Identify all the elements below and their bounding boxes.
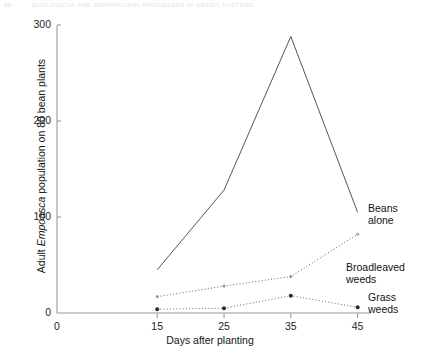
series-marker-grass-weeds <box>155 307 159 311</box>
x-axis-tick-label: 15 <box>144 320 170 332</box>
series-label-grass-weeds: Grass weeds <box>368 292 398 315</box>
series-label-beans-alone-line2: alone <box>368 215 398 227</box>
x-axis-tick-label: 35 <box>278 320 304 332</box>
series-marker-grass-weeds <box>356 305 360 309</box>
series-line-broadleaved-weeds <box>157 234 357 296</box>
x-axis-tick-label: 0 <box>44 320 70 332</box>
y-axis-tick-label: 0 <box>21 306 51 318</box>
series-label-beans-alone: Beans alone <box>368 203 398 226</box>
y-axis-title-prefix: Adult <box>35 246 47 273</box>
chart-plot-area <box>0 0 422 360</box>
series-marker-grass-weeds <box>289 294 293 298</box>
series-line-beans-alone <box>157 37 357 270</box>
y-axis-title-suffix: population on 80 bean plants <box>35 59 47 197</box>
y-axis-title-genus: Empoasca <box>35 197 47 247</box>
chart-series-layer <box>155 37 359 312</box>
series-label-broadleaved-line2: weeds <box>346 274 405 286</box>
x-axis-tick-label: 25 <box>211 320 237 332</box>
x-axis-title: Days after planting <box>120 334 300 346</box>
chart-figure: 0100200300 015253545 Adult Empoasca popu… <box>0 0 422 360</box>
series-marker-broadleaved-weeds <box>357 233 359 235</box>
series-label-grass-line1: Grass <box>368 292 398 304</box>
x-axis-ticks <box>157 313 357 318</box>
series-label-beans-alone-line1: Beans <box>368 203 398 215</box>
series-label-broadleaved-line1: Broadleaved <box>346 262 405 274</box>
series-label-grass-line2: weeds <box>368 304 398 316</box>
y-axis-tick-label: 300 <box>21 18 51 30</box>
y-axis-ticks <box>57 25 61 217</box>
series-label-broadleaved-weeds: Broadleaved weeds <box>346 262 405 285</box>
x-axis-tick-label: 45 <box>345 320 371 332</box>
y-axis-title: Adult Empoasca population on 80 bean pla… <box>35 41 47 291</box>
axis-lines <box>57 25 371 313</box>
series-line-grass-weeds <box>157 296 357 310</box>
series-marker-grass-weeds <box>222 306 226 310</box>
